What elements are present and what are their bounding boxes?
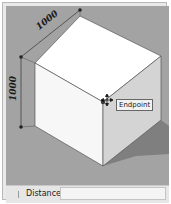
grip-divider <box>18 191 19 198</box>
model-canvas[interactable] <box>6 6 169 185</box>
dimension-endpoint[interactable] <box>78 8 82 12</box>
dimension-label-left[interactable]: 1000 <box>8 76 18 101</box>
dimension-endpoint[interactable] <box>19 125 23 129</box>
measurements-bar: Distance <box>6 185 169 203</box>
extension-line-top-left <box>21 57 35 63</box>
measurement-input[interactable] <box>60 187 166 200</box>
inference-tooltip: Endpoint <box>116 99 153 111</box>
3d-viewport[interactable]: 1000 1000 Endpoint <box>6 6 169 185</box>
app-window: 1000 1000 Endpoint Distance <box>2 2 167 200</box>
extension-line-left-bottom <box>21 126 35 127</box>
measurement-label: Distance <box>26 189 61 199</box>
